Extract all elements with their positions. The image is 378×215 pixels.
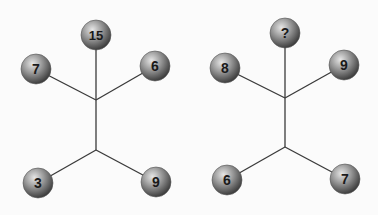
number-puzzle-diagram: 157639?8967 [0, 0, 378, 215]
ball-label: 6 [223, 172, 231, 188]
ball-right-lower-left: 6 [212, 165, 242, 195]
ball-label: 7 [341, 171, 349, 187]
ball-left-lower-right: 9 [141, 167, 171, 197]
ball-label: 9 [152, 174, 160, 190]
ball-label: ? [281, 25, 290, 41]
ball-right-upper-left: 8 [210, 53, 240, 83]
ball-label: 15 [89, 28, 103, 43]
ball-right-lower-right: 7 [330, 164, 360, 194]
ball-label: 8 [221, 60, 229, 76]
ball-left-upper-right: 6 [140, 51, 170, 81]
ball-label: 7 [32, 61, 40, 77]
ball-label: 9 [340, 57, 348, 73]
ball-right-upper-right: 9 [329, 50, 359, 80]
ball-left-upper-left: 7 [21, 54, 51, 84]
ball-right-top: ? [270, 18, 300, 48]
ball-left-lower-left: 3 [23, 168, 53, 198]
ball-label: 6 [151, 58, 159, 74]
ball-left-top: 15 [81, 20, 111, 50]
ball-label: 3 [34, 175, 42, 191]
